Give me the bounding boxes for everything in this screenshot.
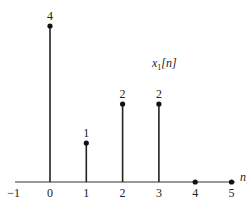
signal-title: x1[n] <box>152 56 177 72</box>
value-label: 2 <box>120 88 126 100</box>
plot-area <box>0 0 251 208</box>
x-tick-label: 1 <box>83 187 89 199</box>
x-axis-label: n <box>240 170 246 185</box>
x-tick-label: 2 <box>120 187 126 199</box>
x-tick-label: 5 <box>229 187 235 199</box>
stem-marker <box>156 101 161 106</box>
stem-marker <box>84 140 89 145</box>
stem-marker <box>193 179 198 184</box>
stem-marker <box>120 101 125 106</box>
x-tick-label: 0 <box>47 187 53 199</box>
value-label: 4 <box>47 10 53 22</box>
x-tick-label: −1 <box>7 187 20 199</box>
x-tick-label: 3 <box>156 187 162 199</box>
value-label: 1 <box>83 127 89 139</box>
value-label: 2 <box>156 88 162 100</box>
stem-marker <box>229 179 234 184</box>
x-tick-label: 4 <box>192 187 198 199</box>
stem-marker <box>47 23 52 28</box>
